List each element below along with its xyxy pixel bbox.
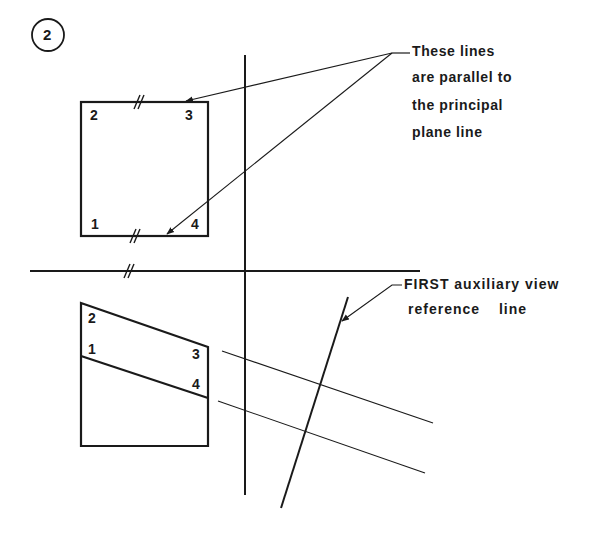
top-corner-label-2: 2 [90,107,98,123]
step-badge-label: 2 [43,27,51,43]
parallel-note-line-1: These lines [412,43,495,59]
parallel-note-line-3: the principal [412,97,503,113]
parallel-note-line-2: are parallel to [412,69,512,85]
front-corner-label-4: 4 [192,376,200,392]
diagram-lines [0,0,603,537]
front-corner-label-2: 2 [88,310,96,326]
leader-arrow-top-edge [186,53,392,101]
front-corner-label-3: 3 [192,346,200,362]
top-corner-label-1: 1 [91,216,99,232]
parallel-note-line-4: plane line [412,124,483,140]
leader-arrow-auxiliary [342,285,402,321]
drawing-canvas: 2 2 3 1 4 2 1 3 4 These lines are parall… [0,0,603,537]
auxiliary-reference-line [281,297,348,508]
leader-arrow-bottom-edge [167,53,392,234]
front-corner-label-1: 1 [88,341,96,357]
auxiliary-note-line-2: reference line [408,301,527,317]
auxiliary-note-line-1: FIRST auxiliary view [404,276,559,292]
top-corner-label-4: 4 [191,216,199,232]
front-view-outline [81,303,208,446]
front-view-edge-1-4 [81,356,208,398]
top-corner-label-3: 3 [185,107,193,123]
projection-line-lower [218,401,425,473]
